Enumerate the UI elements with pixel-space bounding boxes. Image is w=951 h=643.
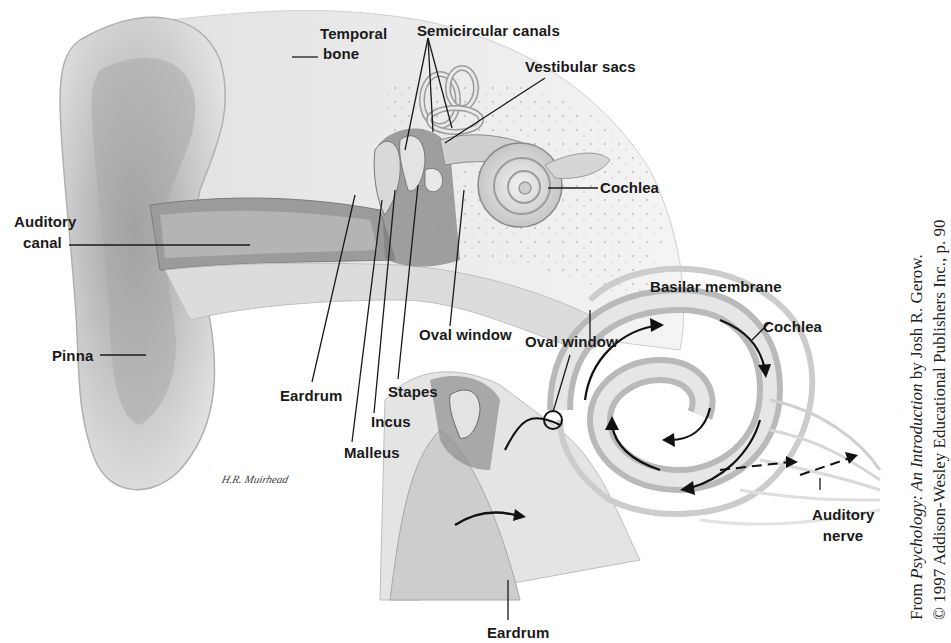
label-eardrum-lower: Eardrum: [487, 624, 549, 641]
label-oval-window-lower: Oval window: [525, 333, 618, 350]
label-vestibular-sacs: Vestibular sacs: [525, 58, 636, 75]
label-semicircular-canals: Semicircular canals: [417, 22, 560, 39]
credit-book-title: Psychology: An Introduction: [907, 383, 926, 578]
ear-anatomy-figure: Temporal bone Semicircular canals Vestib…: [0, 0, 951, 643]
label-auditory-canal-line1: Auditory: [14, 213, 76, 230]
label-cochlea-upper: Cochlea: [600, 179, 659, 196]
label-auditory-nerve-line2: nerve: [812, 527, 874, 544]
label-oval-window-upper: Oval window: [419, 326, 512, 343]
label-auditory-canal-line2: canal: [23, 234, 62, 251]
label-malleus: Malleus: [344, 444, 400, 461]
label-cochlea-lower: Cochlea: [763, 318, 822, 335]
label-temporal-bone-line1: Temporal: [320, 25, 387, 42]
label-incus: Incus: [371, 413, 411, 430]
label-temporal-bone-line2: bone: [323, 45, 359, 62]
label-basilar-membrane: Basilar membrane: [650, 278, 782, 295]
source-credit: From Psychology: An Introduction by Josh…: [905, 219, 951, 620]
artist-signature: H.R. Muirhead: [221, 473, 290, 485]
credit-line-2: © 1997 Addison-Wesley Educational Publis…: [928, 219, 951, 620]
credit-author: by Josh R. Gerow.: [907, 254, 926, 383]
credit-prefix: From: [907, 579, 926, 620]
label-eardrum-upper: Eardrum: [280, 387, 342, 404]
label-stapes: Stapes: [388, 383, 438, 400]
label-pinna: Pinna: [52, 347, 93, 364]
credit-line-1: From Psychology: An Introduction by Josh…: [905, 219, 928, 620]
label-auditory-nerve-line1: Auditory: [812, 506, 874, 523]
